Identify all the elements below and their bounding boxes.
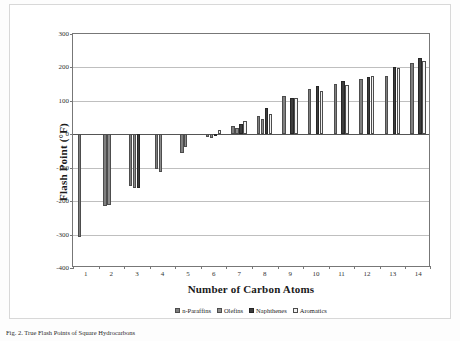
bar-aromatics-c12	[371, 76, 374, 135]
gridline	[73, 101, 429, 102]
bar-group	[257, 34, 273, 266]
y-axis-tick-mark	[70, 134, 73, 135]
x-axis-tick-mark	[73, 266, 74, 269]
bar-olefins-c3	[133, 134, 136, 188]
x-axis-tick-label: 4	[161, 271, 165, 278]
y-axis-tick-label: 200	[35, 64, 69, 71]
x-axis-tick-mark	[405, 266, 406, 269]
legend-label: Olefins	[224, 307, 243, 314]
bar-group	[129, 34, 145, 266]
bar-group	[308, 34, 324, 266]
y-axis-tick-label: -400	[35, 265, 69, 272]
bar-group	[410, 34, 426, 266]
bar-n-paraffins-c2	[103, 134, 106, 206]
x-axis-tick-label: 10	[312, 271, 319, 278]
legend-label: Aromatics	[300, 307, 327, 314]
x-axis-tick-label: 3	[135, 271, 139, 278]
bar-n-paraffins-c12	[359, 79, 362, 134]
x-axis-tick-label: 12	[364, 271, 371, 278]
bar-n-paraffins-c11	[334, 84, 337, 134]
y-axis-tick-mark	[70, 34, 73, 35]
bar-olefins-c4	[159, 134, 162, 171]
x-axis-tick-label: 7	[237, 271, 241, 278]
bar-n-paraffins-c7	[231, 126, 234, 134]
bar-aromatics-c7	[243, 121, 246, 134]
y-axis-tick-label: 0	[35, 131, 69, 138]
bar-group	[359, 34, 375, 266]
x-axis-tick-mark	[303, 266, 304, 269]
legend-item-olefins[interactable]: Olefins	[217, 305, 243, 315]
bar-olefins-c2	[107, 134, 110, 205]
chart-legend: n-ParaffinsOlefinsNaphthenesAromatics	[72, 304, 430, 315]
bar-n-paraffins-c6	[206, 134, 209, 137]
bar-group	[78, 34, 94, 266]
y-axis-tick-label: 100	[35, 97, 69, 104]
x-axis-tick-mark	[150, 266, 151, 269]
bar-group	[155, 34, 171, 266]
bar-n-paraffins-c10	[308, 89, 311, 134]
bar-aromatics-c11	[345, 85, 348, 134]
gridline	[73, 235, 429, 236]
legend-item-naphthenes[interactable]: Naphthenes	[249, 305, 287, 315]
gridline	[73, 67, 429, 68]
gridline	[73, 168, 429, 169]
y-axis-tick-mark	[70, 235, 73, 236]
bar-group	[231, 34, 247, 266]
bar-naphthenes-c10	[316, 86, 319, 134]
bar-naphthenes-c12	[367, 77, 370, 134]
y-axis-tick-mark	[70, 201, 73, 202]
bar-olefins-c6	[210, 134, 213, 137]
bar-group	[334, 34, 350, 266]
bar-naphthenes-c13	[393, 67, 396, 134]
bar-aromatics-c6	[218, 130, 221, 134]
x-axis-tick-mark	[175, 266, 176, 269]
x-axis-tick-label: 11	[338, 271, 345, 278]
y-axis-tick-mark	[70, 101, 73, 102]
bar-n-paraffins-c9	[282, 96, 285, 134]
x-axis-tick-mark	[354, 266, 355, 269]
plot-area: 3002001000-100-200-300-40012345678910111…	[72, 33, 430, 267]
x-axis-tick-mark	[226, 266, 227, 269]
legend-item-aromatics[interactable]: Aromatics	[293, 305, 327, 315]
bar-naphthenes-c14	[418, 58, 421, 134]
x-axis-tick-mark	[252, 266, 253, 269]
bar-aromatics-c13	[397, 68, 400, 134]
x-axis-tick-label: 13	[389, 271, 396, 278]
bar-naphthenes-c7	[239, 124, 242, 134]
legend-label: Naphthenes	[256, 307, 287, 314]
chart-figure-frame: Flash Point (°F) 3002001000-100-200-300-…	[9, 4, 451, 319]
x-axis-tick-mark	[278, 266, 279, 269]
x-axis-tick-label: 6	[212, 271, 216, 278]
y-axis-tick-label: -300	[35, 231, 69, 238]
x-axis-tick-label: 2	[110, 271, 114, 278]
figure-caption: Fig. 2. True Flash Points of Square Hydr…	[6, 328, 446, 337]
y-axis-tick-label: -100	[35, 164, 69, 171]
plot-wrap: 3002001000-100-200-300-40012345678910111…	[72, 33, 430, 267]
bar-group	[282, 34, 298, 266]
x-axis-tick-mark	[380, 266, 381, 269]
y-axis-tick-mark	[70, 168, 73, 169]
x-axis-tick-mark	[201, 266, 202, 269]
legend-swatch-icon	[249, 308, 254, 313]
bar-n-paraffins-c4	[155, 134, 158, 169]
y-axis-tick-label: -200	[35, 198, 69, 205]
x-axis-tick-mark	[124, 266, 125, 269]
x-axis-tick-label: 5	[186, 271, 190, 278]
bar-n-paraffins-c5	[180, 134, 183, 153]
x-axis-tick-label: 8	[263, 271, 267, 278]
x-axis-title: Number of Carbon Atoms	[72, 283, 430, 295]
x-axis-tick-label: 9	[289, 271, 293, 278]
bar-naphthenes-c8	[265, 108, 268, 135]
bar-aromatics-c10	[320, 91, 323, 134]
x-axis-tick-mark	[329, 266, 330, 269]
bar-naphthenes-c3	[137, 134, 140, 187]
legend-label: n-Paraffins	[182, 307, 211, 314]
legend-item-n-paraffins[interactable]: n-Paraffins	[175, 305, 211, 315]
bar-olefins-c8	[261, 119, 264, 134]
bar-n-paraffins-c3	[129, 134, 132, 186]
y-axis-tick-mark	[70, 67, 73, 68]
x-axis-tick-label: 1	[84, 271, 88, 278]
bar-n-paraffins-c1	[78, 134, 81, 236]
bar-n-paraffins-c13	[385, 76, 388, 135]
bar-aromatics-c8	[269, 114, 272, 134]
